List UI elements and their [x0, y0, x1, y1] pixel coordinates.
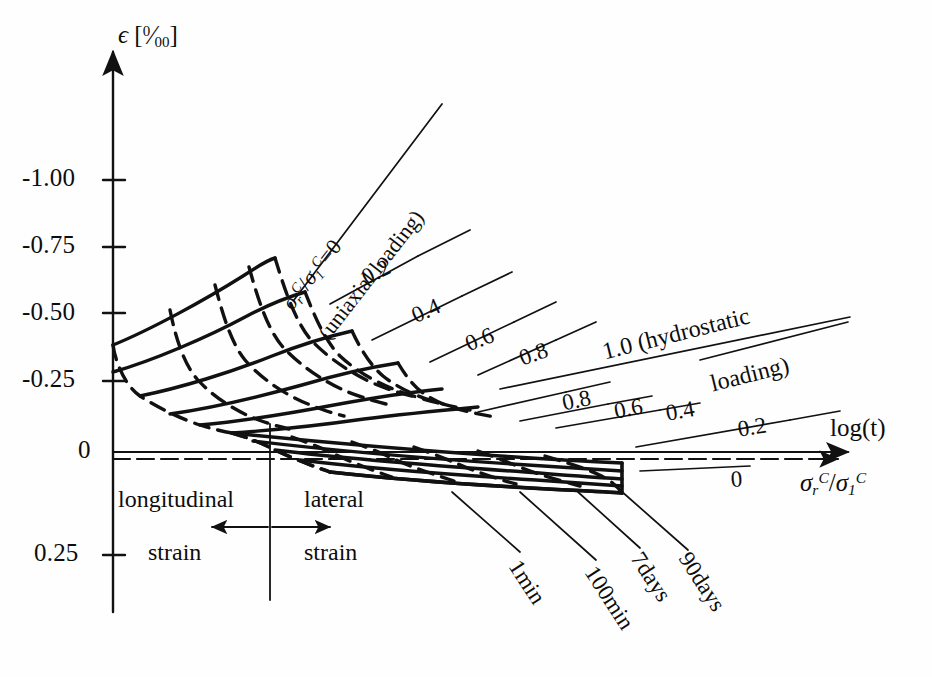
label-underlines-lower [566, 382, 840, 420]
y-tick-label-minus-0.75: -0.75 [22, 232, 75, 257]
figure-canvas: ϵ [0⁄00] -1.00 -0.75 -0.50 -0.25 0 0.25 … [0, 0, 932, 677]
mesh-dashed-lateral [232, 433, 622, 493]
y-axis-unit-open: [ [134, 21, 142, 48]
y-axis-symbol: ϵ [118, 21, 128, 48]
y-axis-unit-denominator: 00 [155, 34, 170, 50]
x-axis-logt-label: log(t) [830, 415, 886, 440]
sigma-1-symbol: σ [836, 469, 848, 496]
sigma-r-symbol: σ [800, 469, 812, 496]
sigma-1-superscript: C [856, 469, 866, 486]
lateral-strain-line2: strain [304, 540, 357, 564]
y-tick-label-0.25: 0.25 [34, 540, 79, 565]
y-tick-label-0: 0 [78, 437, 91, 462]
mesh-solid-lateral [232, 433, 622, 493]
label-underlines-upper [418, 230, 596, 340]
ratio-slash: / [829, 469, 836, 496]
y-axis-unit-close: ] [170, 21, 178, 48]
longitudinal-strain-line2: strain [148, 540, 201, 564]
lateral-strain-line1: lateral [304, 487, 364, 511]
ratio-label-lower-0: 0 [730, 467, 743, 491]
sigma-1-subscript: 1 [848, 481, 856, 498]
ratio-label-lower-0.4: 0.4 [664, 397, 696, 425]
sigma-r-superscript: C [818, 469, 828, 486]
y-tick-label-minus-0.50: -0.50 [22, 299, 75, 324]
ratio-label-lower-0.8: 0.8 [560, 386, 593, 414]
y-axis-unit-fraction: 0⁄00 [143, 23, 170, 50]
y-tick-label-minus-1.00: -1.00 [22, 165, 75, 190]
y-tick-label-minus-0.25: -0.25 [22, 366, 75, 391]
ratio-label-lower-0.2: 0.2 [736, 414, 768, 441]
x-axis-stress-ratio-label: σrC/σ1C [800, 470, 866, 498]
longitudinal-strain-line1: longitudinal [118, 487, 234, 511]
y-axis-title: ϵ [0⁄00] [118, 22, 178, 51]
ratio-label-lower-0.6: 0.6 [612, 395, 645, 423]
leader-lines-time [452, 490, 688, 560]
